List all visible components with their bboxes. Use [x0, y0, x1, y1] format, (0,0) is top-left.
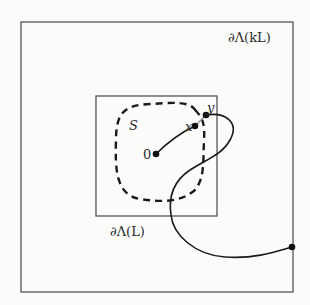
path-y-to-boundary: [170, 114, 292, 257]
set-s-label: S: [129, 118, 138, 133]
origin-point: [153, 151, 160, 158]
boundary-endpoint: [289, 244, 296, 251]
point-x-label: x: [185, 119, 193, 134]
point-x: [192, 123, 199, 130]
origin-label: 0: [143, 147, 151, 162]
point-y-label: y: [206, 100, 215, 115]
diagram-canvas: ∂Λ(kL) ∂Λ(L) S 0 x y: [0, 0, 310, 305]
inner-boundary-label: ∂Λ(L): [110, 224, 145, 239]
outer-boundary-label: ∂Λ(kL): [228, 30, 271, 45]
